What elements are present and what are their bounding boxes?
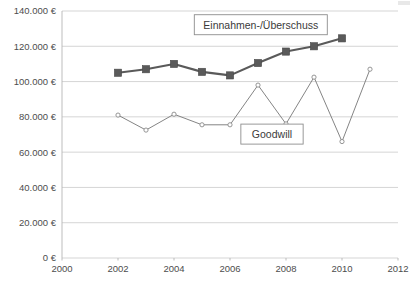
x-tick-label: 2012 — [387, 263, 408, 274]
line-chart: 0 €20.000 €40.000 €60.000 €80.000 €100.0… — [0, 0, 414, 284]
data-point-marker — [172, 112, 176, 116]
data-point-marker — [198, 68, 205, 75]
data-point-marker — [170, 60, 177, 67]
annotation-goodwill-label: Goodwill — [252, 128, 292, 140]
x-tick-label: 2004 — [163, 263, 184, 274]
annotation-income-label: Einnahmen-/Überschuss — [203, 19, 318, 31]
data-point-marker — [256, 83, 260, 87]
data-point-marker — [368, 67, 372, 71]
y-tick-label: 80.000 € — [19, 111, 57, 122]
data-point-marker — [200, 123, 204, 127]
data-point-marker — [310, 43, 317, 50]
y-tick-label: 120.000 € — [14, 41, 57, 52]
data-point-marker — [282, 48, 289, 55]
y-tick-label: 140.000 € — [14, 5, 57, 16]
data-point-marker — [114, 69, 121, 76]
y-tick-label: 0 € — [43, 252, 57, 263]
data-point-marker — [116, 113, 120, 117]
y-tick-label: 60.000 € — [19, 147, 57, 158]
y-tick-label: 100.000 € — [14, 76, 57, 87]
x-tick-label: 2000 — [51, 263, 72, 274]
data-point-marker — [144, 128, 148, 132]
data-point-marker — [226, 72, 233, 79]
chart-container: 0 €20.000 €40.000 €60.000 €80.000 €100.0… — [0, 0, 414, 284]
data-point-marker — [312, 75, 316, 79]
annotation-goodwill: Goodwill — [241, 124, 303, 144]
x-tick-label: 2002 — [107, 263, 128, 274]
top-right-artifact — [398, 1, 410, 5]
data-point-marker — [254, 59, 261, 66]
x-tick-label: 2006 — [219, 263, 240, 274]
y-tick-label: 20.000 € — [19, 217, 57, 228]
data-point-marker — [338, 35, 345, 42]
annotation-einnahmen-ueberschuss: Einnahmen-/Überschuss — [194, 15, 327, 35]
y-tick-label: 40.000 € — [19, 182, 57, 193]
x-tick-label: 2010 — [331, 263, 352, 274]
x-tick-label: 2008 — [275, 263, 296, 274]
data-point-marker — [142, 66, 149, 73]
data-point-marker — [340, 139, 344, 143]
data-point-marker — [228, 123, 232, 127]
